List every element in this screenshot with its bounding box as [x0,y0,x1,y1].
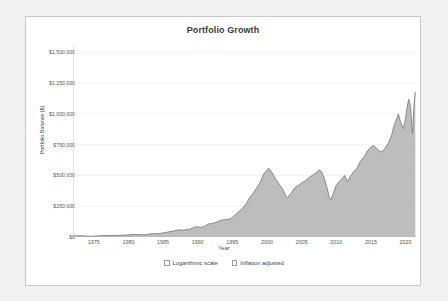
y-tick-label: $0 [15,234,75,240]
plot-wrapper: Portfolio Balance ($) Year $0$250,000$50… [26,17,422,287]
y-tick-label: $1,000,000 [15,111,75,117]
checkbox-logarithmic-scale[interactable]: Logarithmic scale [164,260,218,266]
checkbox-box-inflation-adjusted[interactable] [232,260,238,266]
y-axis-title: Portfolio Balance ($) [39,90,45,170]
y-tick-label: $250,000 [15,203,75,209]
checkbox-box-logarithmic-scale[interactable] [164,260,170,266]
y-tick-label: $500,000 [15,172,75,178]
checkbox-label-inflation-adjusted: Inflation adjusted [240,260,284,266]
checkbox-inflation-adjusted[interactable]: Inflation adjusted [232,260,284,266]
portfolio-growth-area-chart [73,45,416,237]
y-tick-label: $750,000 [15,142,75,148]
chart-card: Portfolio Growth Portfolio Balance ($) Y… [25,16,421,286]
series-area-portfolio-balance [73,92,415,237]
plot-area [73,45,416,237]
y-tick-label: $1,250,000 [15,80,75,86]
y-tick-label: $1,500,000 [15,49,75,55]
x-tick-label: 2020 [386,239,426,245]
screenshot-root: Portfolio Growth Portfolio Balance ($) Y… [0,0,448,301]
chart-options: Logarithmic scale Inflation adjusted [26,260,422,266]
checkbox-label-logarithmic-scale: Logarithmic scale [173,260,218,266]
x-axis-title: Year [26,245,422,251]
